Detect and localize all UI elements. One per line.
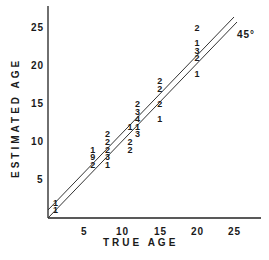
x-tick-5: 5 [81, 226, 88, 237]
y-tick-25: 25 [31, 22, 44, 33]
y-tick-5: 5 [37, 174, 44, 185]
x-tick-25: 25 [228, 226, 241, 237]
reference-line-upper [48, 17, 234, 210]
x-axis-label: TRUE AGE [103, 237, 178, 248]
angle-annotation: 45° [237, 29, 255, 40]
data-point: 2 [157, 85, 162, 92]
data-point: 2 [90, 161, 95, 168]
scatter-chart: 25 20 15 10 5 5 10 15 20 25 ESTIMATED AG… [0, 0, 269, 260]
y-tick-20: 20 [31, 60, 44, 71]
data-point: 2 [194, 25, 199, 32]
y-tick-10: 10 [31, 136, 44, 147]
x-tick-10: 10 [116, 226, 129, 237]
x-tick-15: 15 [154, 226, 167, 237]
y-tick-15: 15 [31, 98, 44, 109]
data-point: 1 [157, 116, 162, 123]
data-point: 2 [157, 101, 162, 108]
data-point: 2 [194, 55, 199, 62]
y-axis-label: ESTIMATED AGE [10, 58, 21, 178]
data-point: 2 [127, 146, 132, 153]
x-tick-20: 20 [191, 226, 204, 237]
reference-line-45 [48, 22, 237, 218]
data-point: 1 [53, 207, 58, 214]
data-point: 1 [105, 161, 110, 168]
data-point: 3 [135, 131, 140, 138]
data-point: 1 [194, 70, 199, 77]
data-point: 1 [127, 123, 132, 130]
